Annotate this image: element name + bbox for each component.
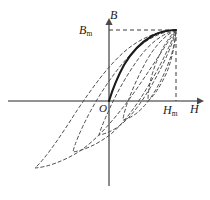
hm-value-label: Hm bbox=[163, 104, 177, 116]
h-axis-label: H bbox=[190, 103, 199, 115]
hysteresis-loop-outer bbox=[35, 30, 176, 168]
hysteresis-loop-2 bbox=[73, 30, 176, 152]
hm-main-text: H bbox=[163, 103, 172, 117]
hm-subscript: m bbox=[172, 109, 178, 118]
origin-label: O bbox=[99, 103, 107, 114]
plot-canvas bbox=[0, 0, 210, 200]
bm-subscript: m bbox=[86, 29, 92, 38]
hysteresis-diagram: B Bm H Hm O bbox=[0, 0, 210, 200]
b-axis-label: B bbox=[110, 9, 117, 21]
bm-value-label: Bm bbox=[79, 24, 92, 36]
